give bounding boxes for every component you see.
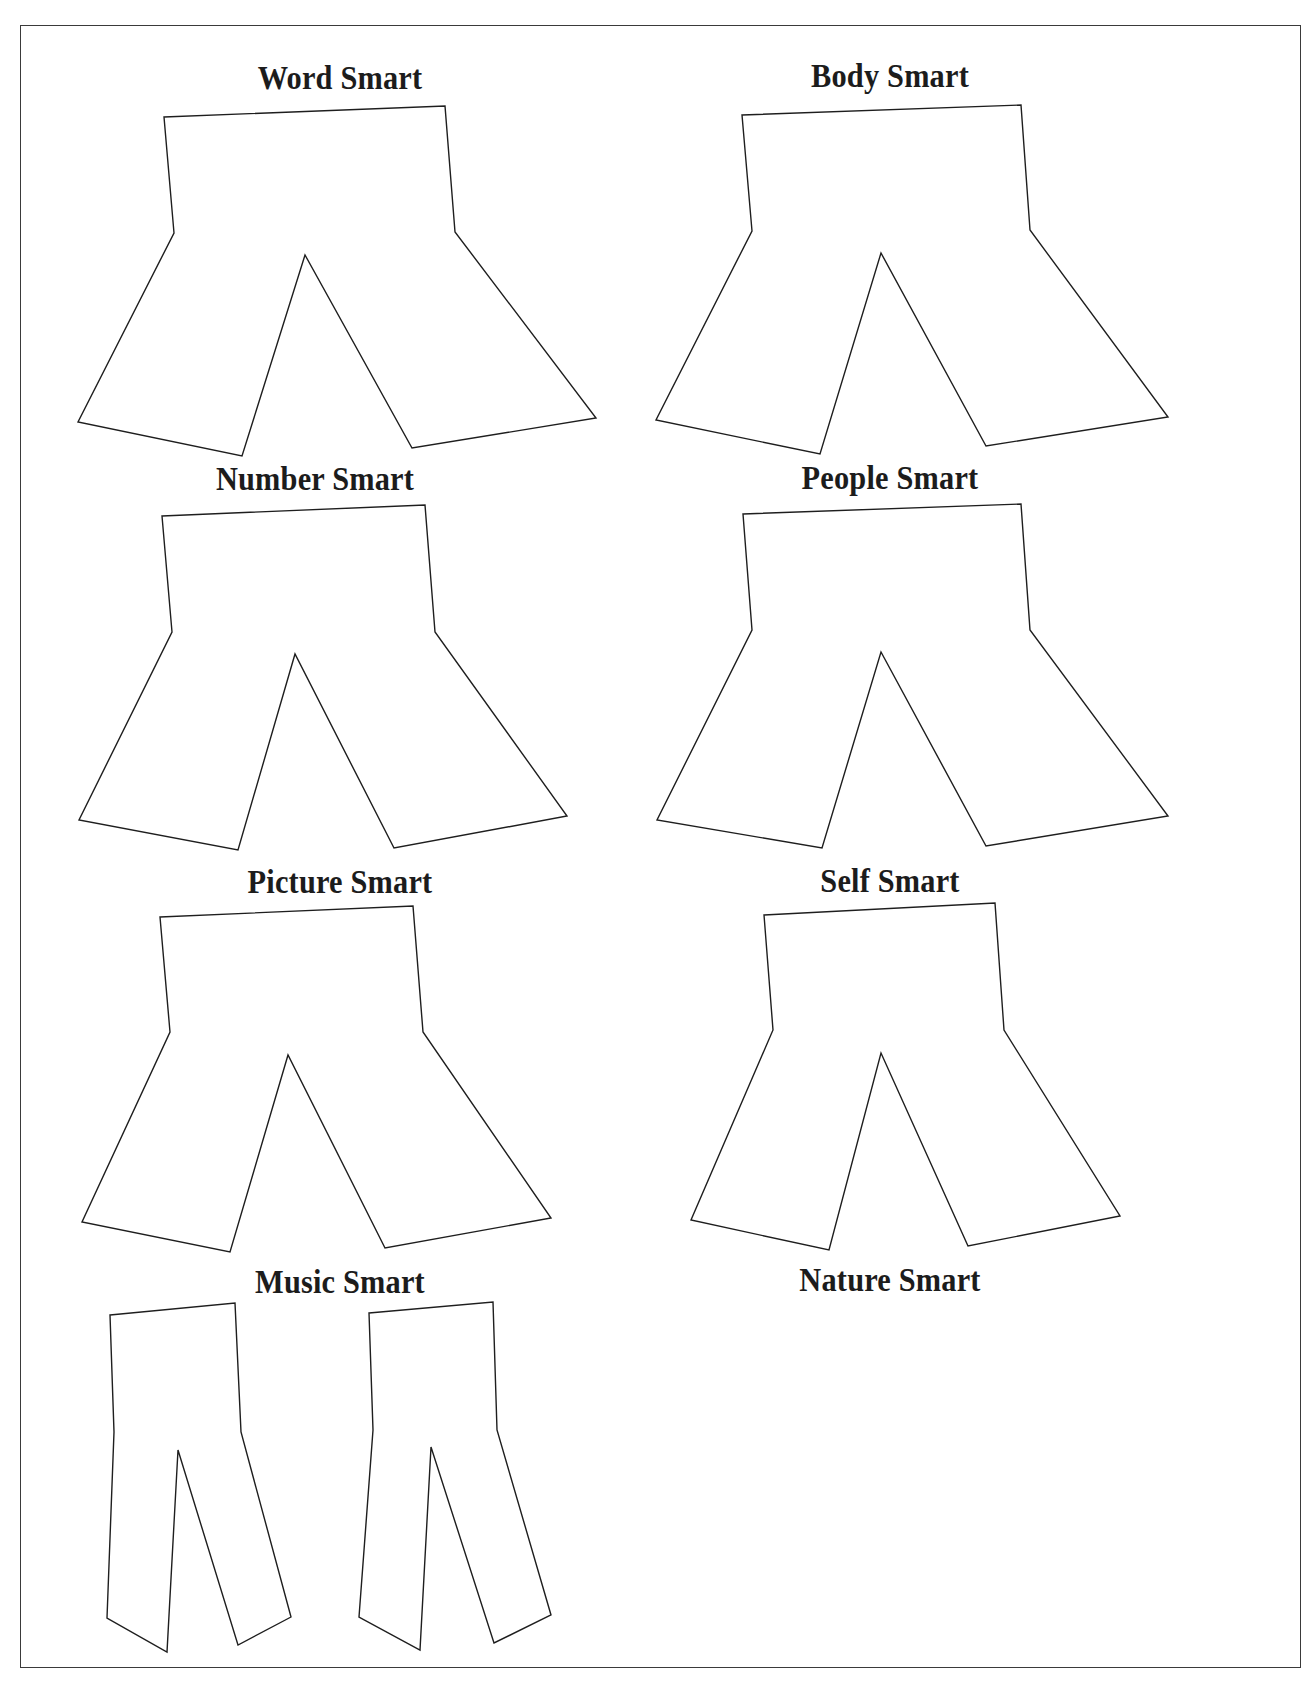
- pants-shape-picture-smart: [82, 906, 551, 1252]
- pants-shape-music-smart: [107, 1303, 291, 1652]
- label-self-smart: Self Smart: [706, 865, 1074, 898]
- pants-shape-body-smart: [656, 105, 1168, 454]
- pants-shape-self-smart: [691, 903, 1120, 1250]
- pants-shape-number-smart: [79, 505, 567, 850]
- pants-shape-word-smart: [78, 106, 596, 456]
- pants-shape-people-smart: [657, 504, 1168, 848]
- label-body-smart: Body Smart: [706, 60, 1074, 93]
- label-number-smart: Number Smart: [131, 463, 499, 496]
- pants-shape-nature-smart: [359, 1302, 551, 1650]
- label-music-smart: Music Smart: [156, 1266, 524, 1299]
- pants-outlines: [0, 0, 1314, 1687]
- label-nature-smart: Nature Smart: [706, 1264, 1074, 1297]
- label-word-smart: Word Smart: [156, 62, 524, 95]
- label-people-smart: People Smart: [706, 462, 1074, 495]
- label-picture-smart: Picture Smart: [156, 866, 524, 899]
